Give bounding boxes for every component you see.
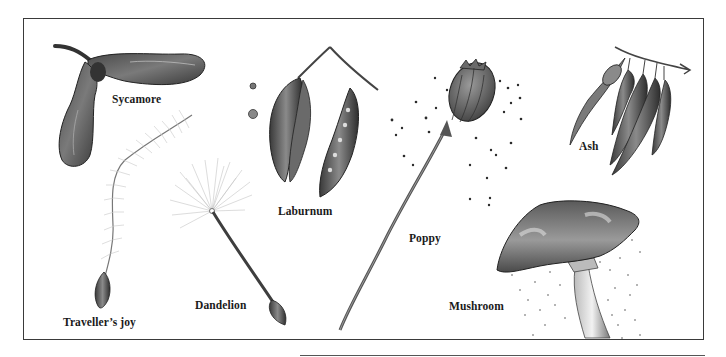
label-travellers-joy: Traveller’s joy bbox=[63, 316, 136, 328]
ash-illustration bbox=[570, 47, 690, 175]
label-mushroom: Mushroom bbox=[449, 300, 504, 312]
laburnum-illustration bbox=[249, 47, 379, 197]
label-sycamore: Sycamore bbox=[112, 93, 161, 105]
label-laburnum: Laburnum bbox=[278, 205, 333, 217]
mushroom-illustration bbox=[497, 201, 641, 339]
label-ash: Ash bbox=[579, 140, 598, 152]
travellers-joy-illustration bbox=[95, 110, 192, 308]
illustration-canvas bbox=[0, 0, 726, 357]
label-dandelion: Dandelion bbox=[195, 299, 246, 311]
poppy-illustration bbox=[340, 56, 522, 330]
sycamore-illustration bbox=[55, 46, 205, 166]
label-poppy: Poppy bbox=[409, 232, 441, 244]
